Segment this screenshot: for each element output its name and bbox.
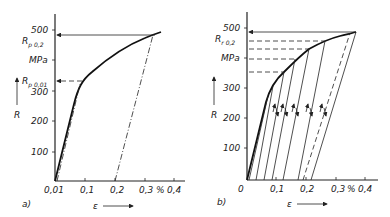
y-tick-500: 500 — [31, 25, 48, 35]
x-axis-symbol: ε — [93, 201, 98, 211]
y-tick-300: 300 — [31, 87, 48, 97]
stress-strain-curve-b — [247, 32, 356, 180]
y-tick-200: 200 — [223, 113, 240, 123]
x-tick-0-1: 0,1 — [270, 184, 284, 194]
x-tick-0-2: 0,2 — [300, 184, 315, 194]
y-tick-100: 100 — [31, 147, 48, 157]
x-tick-0-2: 0,2 — [110, 185, 125, 195]
offset-line-0-2 — [115, 35, 153, 181]
x-tick-0-01: 0,01 — [44, 185, 64, 195]
y-tick-500: 500 — [223, 23, 240, 33]
panel-a: 500 Rp 0,2 MPa Rp 0,01 300 200 100 R 0,0… — [14, 14, 185, 211]
load-unload-arrows-icon — [273, 104, 326, 116]
x-tick-0: 0 — [238, 184, 244, 194]
x-unit: % — [156, 185, 165, 195]
panel-b: 500 Rr 0,2 MPa 300 200 100 R 0 0,1 0,2 0… — [211, 12, 378, 209]
x-unit: % — [347, 184, 356, 194]
y-tick-100: 100 — [223, 143, 240, 153]
x-tick-0-3: 0,3 — [139, 185, 154, 195]
panel-label-b: b) — [217, 197, 226, 207]
x-tick-0-1: 0,1 — [80, 185, 94, 195]
panel-label-a: a) — [22, 199, 31, 209]
offset-line-0-2 — [303, 33, 350, 180]
label-rr02: Rr 0,2 — [215, 34, 235, 46]
stress-strain-curve-a — [55, 32, 161, 181]
y-axis-symbol: R — [14, 110, 20, 120]
y-tick-300: 300 — [223, 83, 240, 93]
x-axis-symbol: ε — [287, 199, 292, 209]
x-tick-0-4: 0,4 — [358, 184, 373, 194]
y-unit: MPa — [221, 53, 240, 63]
y-unit: MPa — [29, 55, 48, 65]
y-axis-symbol: R — [211, 110, 217, 120]
x-tick-0-3: 0,3 — [331, 184, 346, 194]
offset-line-0-01 — [57, 84, 80, 181]
figure-canvas: 500 Rp 0,2 MPa Rp 0,01 300 200 100 R 0,0… — [0, 0, 390, 217]
x-tick-0-4: 0,4 — [167, 185, 182, 195]
y-tick-200: 200 — [31, 116, 48, 126]
label-rp02: Rp 0,2 — [22, 36, 44, 49]
